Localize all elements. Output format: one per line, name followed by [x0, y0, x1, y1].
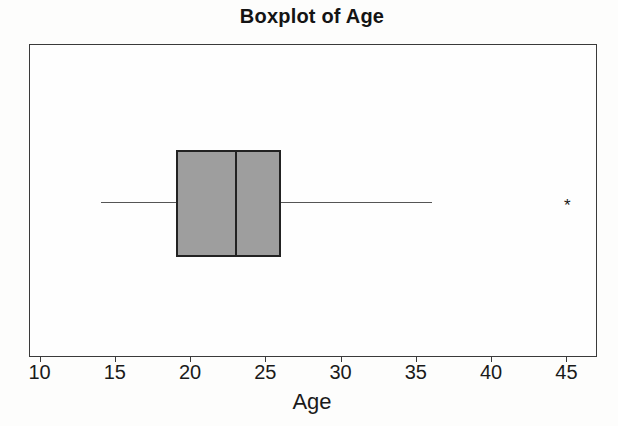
x-tick-label: 20: [179, 361, 201, 384]
plot-area: *: [29, 44, 597, 357]
x-axis: 1015202530354045: [29, 356, 595, 386]
x-tick-label: 45: [555, 361, 577, 384]
whisker-high: [281, 202, 432, 203]
chart-title: Boxplot of Age: [29, 5, 595, 28]
median-line: [235, 150, 237, 257]
x-tick-label: 30: [329, 361, 351, 384]
whisker-low: [101, 202, 176, 203]
outlier-marker: *: [564, 197, 571, 214]
x-tick-label: 35: [405, 361, 427, 384]
iqr-box: [176, 150, 281, 257]
x-axis-label: Age: [29, 389, 595, 415]
x-tick-label: 15: [104, 361, 126, 384]
boxplot-figure: Boxplot of Age * 1015202530354045 Age: [0, 0, 618, 426]
x-tick-label: 25: [254, 361, 276, 384]
x-tick-label: 10: [28, 361, 50, 384]
x-tick-label: 40: [480, 361, 502, 384]
